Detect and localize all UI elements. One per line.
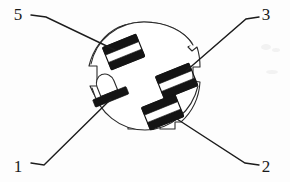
smudge-mark: [266, 70, 278, 74]
callout-label-2: 2: [262, 157, 271, 176]
connector-diagram: 5 3 1 2: [0, 0, 290, 182]
leader-line-2: [177, 119, 259, 165]
figure-root: 5 3 1 2: [0, 0, 290, 182]
smudge-mark: [272, 48, 280, 52]
callout-label-3: 3: [262, 5, 271, 24]
callout-label-1: 1: [14, 157, 23, 176]
smudge-mark: [261, 44, 271, 50]
callout-label-5: 5: [14, 5, 23, 24]
leader-line-1: [31, 99, 111, 165]
paper-smudges: [261, 44, 280, 74]
